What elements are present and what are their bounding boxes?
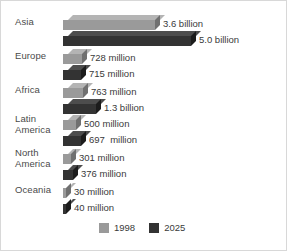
value-label-oceania-1998: 30 million [74,186,114,197]
value-label-oceania-2025: 40 million [74,202,114,213]
bar-front-face [63,104,96,114]
legend-swatch-1998 [99,223,109,233]
bar-block [63,165,79,180]
bar-block [63,65,87,80]
value-label-europe-2025: 715 million [89,68,134,79]
category-label-africa: Africa [15,85,63,96]
bar-africa-2025[interactable] [63,99,102,115]
category-label-europe: Europe [15,51,63,62]
bar-block [63,115,82,130]
category-label-oceania: Oceania [15,185,63,196]
chart-category-row: Europe728 million715 million [1,49,287,81]
chart-category-row: North America301 million376 million [1,149,287,181]
bar-block [63,131,87,146]
bar-latin-america-1998[interactable] [63,115,82,131]
bar-side-face [66,199,71,214]
bar-block [63,83,89,98]
value-label-latin-america-1998: 500 million [84,118,129,129]
value-label-north-america-1998: 301 million [79,152,124,163]
bar-block [63,149,77,164]
bar-front-face [63,136,81,146]
bar-front-face [63,54,82,64]
value-label-north-america-2025: 376 million [81,168,126,179]
bar-block [63,15,161,30]
bar-north-america-2025[interactable] [63,165,79,181]
bar-side-face [66,183,71,198]
bar-block [63,199,72,214]
chart-category-row: Latin America500 million697 million [1,115,287,147]
bar-oceania-2025[interactable] [63,199,72,215]
legend-item-1998[interactable]: 1998 [99,222,135,233]
bar-front-face [63,20,155,30]
bar-front-face [63,70,81,80]
bar-front-face [63,170,73,180]
bar-block [63,49,88,64]
bar-front-face [63,120,76,130]
value-label-africa-2025: 1.3 billion [104,102,144,113]
bar-block [63,31,197,46]
legend-swatch-2025 [149,223,159,233]
bar-front-face [63,154,71,164]
category-label-north-america: North America [15,148,63,169]
bar-africa-1998[interactable] [63,83,89,99]
legend-label-1998: 1998 [114,222,135,233]
chart-category-row: Asia3.6 billion5.0 billion [1,15,287,47]
category-label-asia: Asia [15,17,63,28]
bar-block [63,99,102,114]
category-label-latin-america: Latin America [15,114,63,135]
chart-category-row: Oceania30 million40 million [1,183,287,215]
bar-asia-2025[interactable] [63,31,197,47]
legend-item-2025[interactable]: 2025 [149,222,185,233]
bar-front-face [63,88,83,98]
bar-europe-2025[interactable] [63,65,87,81]
bar-block [63,183,72,198]
value-label-latin-america-2025: 697 million [89,134,137,145]
chart-category-row: Africa763 million1.3 billion [1,83,287,115]
bar-asia-1998[interactable] [63,15,161,31]
legend-label-2025: 2025 [164,222,185,233]
chart-legend: 1998 2025 [99,222,185,233]
chart-plot-area: Asia3.6 billion5.0 billionEurope728 mill… [1,1,287,251]
bar-north-america-1998[interactable] [63,149,77,165]
value-label-asia-2025: 5.0 billion [199,34,239,45]
value-label-africa-1998: 763 million [91,86,136,97]
population-bar-chart: Asia3.6 billion5.0 billionEurope728 mill… [0,0,287,251]
bar-front-face [63,36,191,46]
bar-latin-america-2025[interactable] [63,131,87,147]
bar-europe-1998[interactable] [63,49,88,65]
value-label-asia-1998: 3.6 billion [163,18,203,29]
bar-oceania-1998[interactable] [63,183,72,199]
value-label-europe-1998: 728 million [90,52,135,63]
